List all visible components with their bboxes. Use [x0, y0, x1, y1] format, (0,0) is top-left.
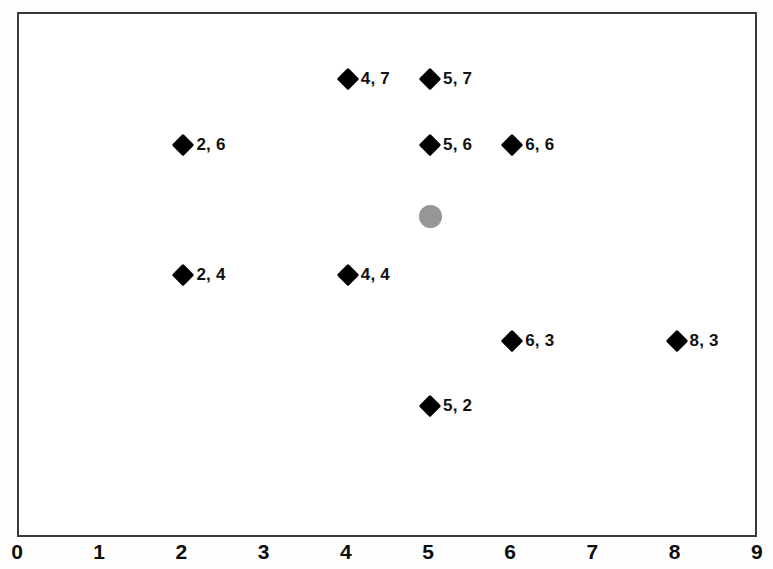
diamond-marker [501, 329, 524, 352]
x-axis: 0123456789 [0, 539, 773, 569]
data-point-label: 5, 7 [443, 68, 472, 90]
x-tick-label-8: 8 [655, 539, 695, 565]
diamond-marker [336, 68, 359, 91]
diamond-marker [336, 264, 359, 287]
diamond-marker [501, 133, 524, 156]
scatter-chart: 4, 75, 72, 65, 66, 62, 44, 46, 38, 35, 2… [0, 0, 773, 569]
data-point-label: 2, 4 [196, 264, 225, 286]
x-tick-label-7: 7 [572, 539, 612, 565]
data-point-label: 5, 6 [443, 134, 472, 156]
diamond-marker [172, 264, 195, 287]
x-tick-label-1: 1 [79, 539, 119, 565]
diamond-marker [665, 329, 688, 352]
plot-area: 4, 75, 72, 65, 66, 62, 44, 46, 38, 35, 2 [17, 12, 757, 537]
x-tick-label-3: 3 [244, 539, 284, 565]
x-tick-label-0: 0 [0, 539, 37, 565]
x-tick-label-5: 5 [408, 539, 448, 565]
x-tick-label-9: 9 [737, 539, 773, 565]
circle-marker [419, 205, 442, 228]
data-point-label: 4, 4 [361, 264, 390, 286]
x-tick-label-2: 2 [161, 539, 201, 565]
data-point-label: 8, 3 [690, 330, 719, 352]
diamond-marker [419, 133, 442, 156]
data-point-label: 2, 6 [196, 134, 225, 156]
x-tick-label-4: 4 [326, 539, 366, 565]
data-point-label: 4, 7 [361, 68, 390, 90]
diamond-marker [172, 133, 195, 156]
diamond-marker [419, 395, 442, 418]
x-tick-label-6: 6 [490, 539, 530, 565]
data-point-label: 6, 6 [525, 134, 554, 156]
data-point-label: 5, 2 [443, 395, 472, 417]
data-point-label: 6, 3 [525, 330, 554, 352]
diamond-marker [419, 68, 442, 91]
